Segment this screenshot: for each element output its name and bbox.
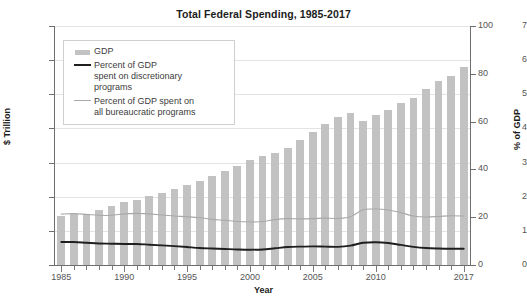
y-tick-right [471,74,476,75]
y-tick-label-right: 0 [478,259,518,269]
y-tick-label-right: 20 [478,211,518,221]
y-tick-label-left: 6 [483,54,527,64]
x-tick-label: 2005 [290,272,336,282]
right-axis-spine [470,26,471,266]
x-tick [225,266,226,270]
y-tick-label-left: 2 [483,191,527,201]
y-tick-label-right: 100 [478,20,518,30]
x-tick-label: 1990 [101,272,147,282]
y-tick-left [49,94,54,95]
legend-item-gdp: GDP [70,46,228,57]
x-tick [99,266,100,270]
chart-legend: GDP Percent of GDP spent on discretionar… [63,40,235,125]
x-tick [200,266,201,270]
x-tick [413,266,414,270]
y-tick-label-left: 5 [483,88,527,98]
legend-swatch-line-dark-icon [70,60,94,66]
legend-swatch-line-grey-icon [70,96,94,101]
x-tick [338,266,339,270]
x-tick [162,266,163,270]
chart-title: Total Federal Spending, 1985-2017 [0,8,527,20]
legend-item-bureaucratic: Percent of GDP spent on all bureaucratic… [70,96,228,118]
y-tick-left [49,60,54,61]
x-tick [288,266,289,270]
y-tick-label-right: 40 [478,163,518,173]
legend-label-discretionary: Percent of GDP spent on discretionary pr… [94,60,182,93]
x-tick [351,266,352,270]
x-tick-label: 1995 [164,272,210,282]
line-discretionary [61,242,463,250]
y-tick-left [49,265,54,266]
x-tick [451,266,452,270]
x-tick [363,266,364,270]
x-tick-label: 2010 [353,272,399,282]
y-tick-right [471,217,476,218]
x-tick [212,266,213,270]
x-tick-label: 2017 [441,272,487,282]
y-tick-left [49,26,54,27]
legend-label-bureaucratic: Percent of GDP spent on all bureaucratic… [94,96,196,118]
x-tick [174,266,175,270]
x-tick [401,266,402,270]
chart-figure: Total Federal Spending, 1985-2017 $ Tril… [0,0,527,306]
x-tick [86,266,87,270]
y-tick-right [471,265,476,266]
x-tick [439,266,440,270]
y-tick-right [471,26,476,27]
x-axis-label: Year [0,285,527,295]
y-tick-left [49,197,54,198]
y-tick-left [49,231,54,232]
x-tick [426,266,427,270]
legend-swatch-bar-icon [70,46,94,55]
x-tick-label: 1985 [38,272,84,282]
x-tick [137,266,138,270]
y-tick-left [49,163,54,164]
y-tick-label-right: 80 [478,68,518,78]
x-tick [388,266,389,270]
x-tick [275,266,276,270]
y-tick-right [471,122,476,123]
y-tick-right [471,169,476,170]
line-bureaucratic [61,209,463,222]
x-tick [237,266,238,270]
x-tick [300,266,301,270]
x-tick [74,266,75,270]
y-tick-label-left: 1 [483,225,527,235]
x-tick [325,266,326,270]
x-tick [149,266,150,270]
y-tick-label-right: 60 [478,116,518,126]
legend-label-gdp: GDP [94,46,114,57]
x-tick-label: 2000 [227,272,273,282]
y-tick-left [49,128,54,129]
x-tick [263,266,264,270]
y-axis-label-left: $ Trillion [2,108,12,145]
x-tick [112,266,113,270]
legend-item-discretionary: Percent of GDP spent on discretionary pr… [70,60,228,93]
